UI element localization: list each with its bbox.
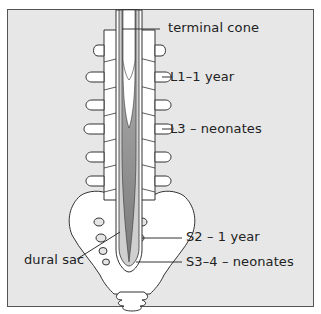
label-dural-sac: dural sac bbox=[24, 253, 84, 266]
label-s2-1-year: S2 – 1 year bbox=[186, 230, 260, 243]
label-s3-4-neonates: S3–4 – neonates bbox=[186, 255, 294, 268]
label-l1-1-year: L1–1 year bbox=[170, 70, 234, 83]
label-l3-neonates: L3 – neonates bbox=[170, 122, 262, 135]
label-terminal-cone: terminal cone bbox=[168, 21, 259, 34]
